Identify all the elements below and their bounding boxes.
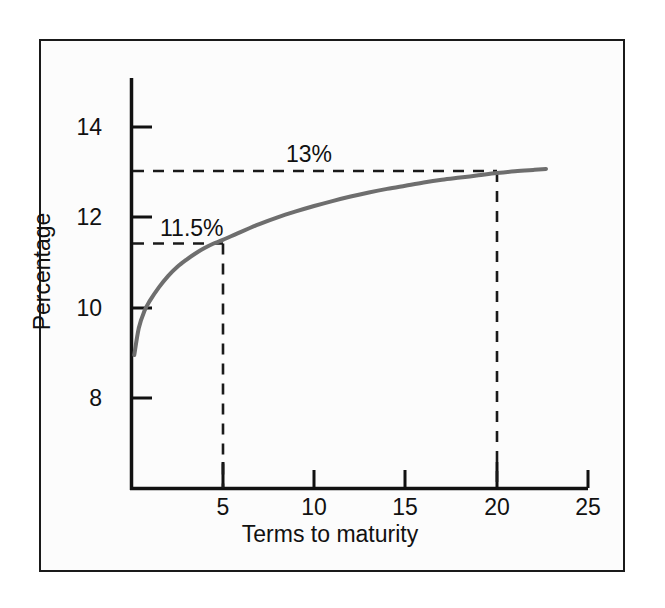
y-axis-title: Percentage xyxy=(29,192,56,352)
y-tick-label-14: 14 xyxy=(42,114,102,141)
x-axis-title: Terms to maturity xyxy=(180,521,480,548)
y-tick-label-8: 8 xyxy=(42,385,102,412)
guide-lines-115pct xyxy=(133,244,223,489)
data-series-yield-curve xyxy=(134,169,546,355)
x-tick-label-15: 15 xyxy=(375,494,435,521)
x-tick-label-20: 20 xyxy=(467,494,527,521)
annotation-label-11-5-percent: 11.5% xyxy=(160,215,224,242)
x-tick-label-5: 5 xyxy=(193,494,253,521)
x-tick-label-10: 10 xyxy=(284,494,344,521)
x-tick-marks xyxy=(223,462,588,488)
x-tick-label-25: 25 xyxy=(558,494,618,521)
figure-canvas: 14 12 10 8 5 10 15 20 25 Percentage Term… xyxy=(0,0,665,608)
y-tick-marks xyxy=(131,127,152,398)
annotation-label-13-percent: 13% xyxy=(286,141,332,168)
